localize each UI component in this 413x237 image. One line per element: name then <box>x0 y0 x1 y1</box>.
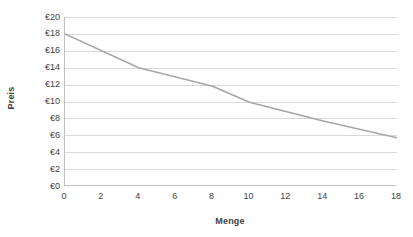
data-line-svg <box>65 17 397 186</box>
x-tick-label: 0 <box>52 192 76 201</box>
x-tick-label: 16 <box>347 192 371 201</box>
x-tick-label: 12 <box>273 192 297 201</box>
line-chart: Preis Menge €0€2€4€6€8€10€12€14€16€18€20… <box>0 0 413 237</box>
x-tick-label: 6 <box>163 192 187 201</box>
series-line-nachfrage <box>65 34 397 138</box>
x-tick-label: 18 <box>384 192 408 201</box>
x-tick-label: 8 <box>200 192 224 201</box>
plot-area <box>64 17 396 186</box>
x-tick-label: 4 <box>126 192 150 201</box>
x-tick-label: 10 <box>236 192 260 201</box>
gridline <box>65 186 397 187</box>
x-tick-label: 2 <box>89 192 113 201</box>
x-tick-label: 14 <box>310 192 334 201</box>
